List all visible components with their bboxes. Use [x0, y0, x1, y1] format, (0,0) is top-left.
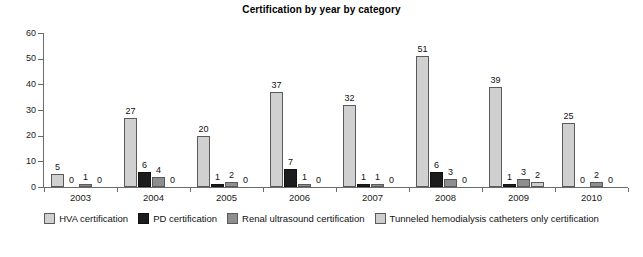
x-axis-category-label: 2005 — [192, 192, 262, 203]
legend-label: PD certification — [153, 213, 217, 224]
legend-label: HVA certification — [59, 213, 128, 224]
legend-item[interactable]: Tunneled hemodialysis catheters only cer… — [375, 213, 599, 224]
y-axis-tick — [38, 187, 43, 188]
bar-group-bars: 51630 — [409, 33, 482, 187]
bar-value-label: 0 — [306, 176, 332, 185]
bar-group-bars: 20120 — [190, 33, 263, 187]
x-axis-tick — [555, 188, 556, 192]
x-axis-category-label: 2006 — [265, 192, 335, 203]
bar[interactable] — [270, 92, 283, 187]
legend-item[interactable]: Renal ultrasound certification — [227, 213, 365, 224]
bar[interactable] — [211, 184, 224, 187]
y-axis-tick — [38, 59, 43, 60]
bar[interactable] — [124, 118, 137, 187]
y-axis-tick — [38, 110, 43, 111]
bar-value-label: 39 — [483, 76, 509, 85]
chart-title: Certification by year by category — [0, 4, 643, 15]
bar-group: 39132 — [482, 33, 555, 187]
bar[interactable] — [517, 179, 530, 187]
y-axis-tick-label: 20 — [6, 131, 36, 140]
y-axis-tick-label: 10 — [6, 157, 36, 166]
x-axis-tick — [190, 188, 191, 192]
y-axis-tick — [38, 84, 43, 85]
x-axis-tick — [117, 188, 118, 192]
bar-group: 5010 — [44, 33, 117, 187]
legend-label: Tunneled hemodialysis catheters only cer… — [390, 213, 599, 224]
x-axis-tick — [409, 188, 410, 192]
y-axis-tick — [38, 136, 43, 137]
legend-item[interactable]: HVA certification — [44, 213, 128, 224]
bar[interactable] — [503, 184, 516, 187]
bar-group: 20120 — [190, 33, 263, 187]
legend-swatch-icon — [138, 213, 149, 224]
bar-group: 25020 — [555, 33, 628, 187]
bar-group-bars: 32110 — [336, 33, 409, 187]
chart-legend: HVA certificationPD certificationRenal u… — [0, 213, 643, 224]
x-axis-category-label: 2004 — [119, 192, 189, 203]
bar-group-bars: 27640 — [117, 33, 190, 187]
x-axis-tick — [263, 188, 264, 192]
bar-value-label: 0 — [379, 176, 405, 185]
x-axis-category-label: 2003 — [46, 192, 116, 203]
x-axis-category-label: 2010 — [557, 192, 627, 203]
x-axis-category-label: 2008 — [411, 192, 481, 203]
bar-value-label: 0 — [160, 176, 186, 185]
bar-value-label: 0 — [233, 176, 259, 185]
x-axis-category-label: 2007 — [338, 192, 408, 203]
bar-value-label: 4 — [146, 166, 172, 175]
x-axis-tick — [482, 188, 483, 192]
y-axis-tick — [38, 161, 43, 162]
y-axis-tick-label: 40 — [6, 80, 36, 89]
bar-group-bars: 39132 — [482, 33, 555, 187]
legend-item[interactable]: PD certification — [138, 213, 217, 224]
bar-value-label: 7 — [278, 158, 304, 167]
bar-value-label: 37 — [264, 81, 290, 90]
y-axis-tick-label: 60 — [6, 29, 36, 38]
bar-group-bars: 37710 — [263, 33, 336, 187]
bar-value-label: 25 — [556, 112, 582, 121]
bar-value-label: 32 — [337, 94, 363, 103]
bar-chart: Certification by year by category 010203… — [0, 0, 643, 257]
bar-value-label: 27 — [118, 107, 144, 116]
y-axis-tick — [38, 33, 43, 34]
bar-value-label: 0 — [87, 176, 113, 185]
bar-value-label: 20 — [191, 125, 217, 134]
bar[interactable] — [357, 184, 370, 187]
bar-value-label: 0 — [598, 176, 624, 185]
x-axis-category-label: 2009 — [484, 192, 554, 203]
x-axis-tick — [44, 188, 45, 192]
bar-value-label: 51 — [410, 45, 436, 54]
bar-group-bars: 5010 — [44, 33, 117, 187]
legend-swatch-icon — [44, 213, 55, 224]
bar-group: 27640 — [117, 33, 190, 187]
y-axis-tick-label: 0 — [6, 183, 36, 192]
bar-value-label: 2 — [525, 171, 551, 180]
x-axis-tick — [628, 188, 629, 192]
legend-label: Renal ultrasound certification — [242, 213, 365, 224]
legend-swatch-icon — [227, 213, 238, 224]
y-axis-tick-label: 50 — [6, 54, 36, 63]
bar-group: 37710 — [263, 33, 336, 187]
bar-value-label: 5 — [45, 163, 71, 172]
x-axis-tick — [336, 188, 337, 192]
bar-group-bars: 25020 — [555, 33, 628, 187]
y-axis-tick-label: 30 — [6, 106, 36, 115]
bar-value-label: 0 — [452, 176, 478, 185]
bar[interactable] — [489, 87, 502, 187]
legend-swatch-icon — [375, 213, 386, 224]
bar[interactable] — [531, 182, 544, 187]
bar-group: 32110 — [336, 33, 409, 187]
bar-group: 51630 — [409, 33, 482, 187]
